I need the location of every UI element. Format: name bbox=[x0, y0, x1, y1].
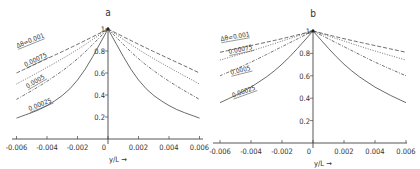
y-tick-label: 0.6 bbox=[299, 72, 310, 81]
x-axis-label: y/L → bbox=[109, 155, 127, 164]
chart-panel-b: -0.006-0.004-0.00200.0020.0040.0060.20.4… bbox=[209, 8, 416, 168]
x-tick-label: -0.004 bbox=[36, 143, 58, 152]
panel-title: a bbox=[105, 7, 111, 18]
series-label: Δθ=0.001 bbox=[220, 30, 250, 43]
y-tick-label: 0.2 bbox=[94, 113, 105, 122]
series-label: 0.00025 bbox=[231, 84, 257, 100]
peak-marker bbox=[106, 27, 109, 30]
y-tick-label: 0.8 bbox=[299, 49, 310, 58]
x-tick-label: -0.002 bbox=[67, 143, 89, 152]
x-tick-label: 0.002 bbox=[129, 143, 148, 152]
figure: -0.006-0.004-0.00200.0020.0040.0060.20.4… bbox=[0, 0, 420, 169]
y-tick-label: 0.2 bbox=[299, 117, 310, 126]
y-tick-label: 0.6 bbox=[94, 69, 105, 78]
x-tick-label: 0.004 bbox=[365, 147, 384, 156]
series-label: 0.00075 bbox=[228, 43, 254, 56]
x-tick-label: 0 bbox=[102, 143, 106, 152]
x-tick-label: 0.002 bbox=[334, 147, 353, 156]
x-axis-label: y/L → bbox=[314, 159, 332, 168]
peak-marker bbox=[311, 29, 314, 32]
x-tick-label: -0.006 bbox=[6, 143, 28, 152]
x-tick-label: -0.006 bbox=[209, 147, 231, 156]
panel-title: b bbox=[310, 8, 316, 19]
y-tick-label: 0.4 bbox=[94, 91, 105, 100]
x-tick-label: 0.006 bbox=[396, 147, 415, 156]
x-tick-label: -0.004 bbox=[240, 147, 262, 156]
x-tick-label: 0.004 bbox=[159, 143, 178, 152]
series-label: 0.00075 bbox=[23, 51, 48, 69]
series-label: 0.0005 bbox=[230, 64, 252, 77]
chart-panel-a: -0.006-0.004-0.00200.0020.0040.0060.20.4… bbox=[6, 7, 210, 164]
x-tick-label: -0.002 bbox=[271, 147, 293, 156]
x-tick-label: 0 bbox=[307, 147, 311, 156]
y-tick-label: 0.4 bbox=[299, 94, 310, 103]
series-label: Δθ=0.001 bbox=[15, 31, 45, 49]
x-tick-label: 0.006 bbox=[190, 143, 209, 152]
series-label: 0.0005 bbox=[25, 73, 47, 90]
